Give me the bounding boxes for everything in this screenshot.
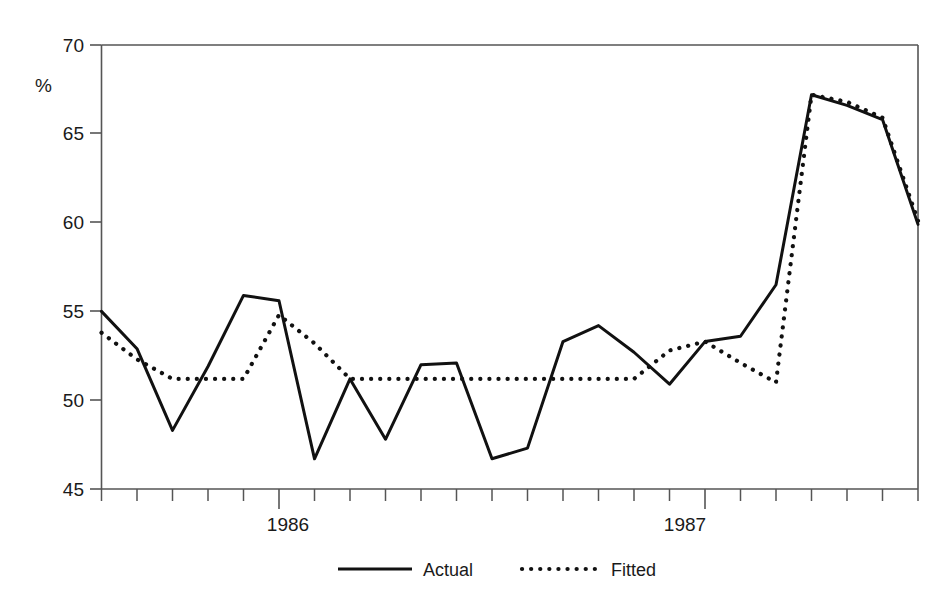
- y-tick-label-50: 50: [63, 390, 84, 411]
- plot-frame: [102, 45, 919, 489]
- chart-legend: Actual Fitted: [338, 560, 656, 580]
- y-tick-label-60: 60: [63, 212, 84, 233]
- chart-container: 70 65 60 55 50 45 % 1986 1987 Actual Fit…: [0, 0, 945, 607]
- y-tick-label-45: 45: [63, 479, 84, 500]
- legend-label-actual: Actual: [423, 560, 473, 580]
- y-tick-label-55: 55: [63, 301, 84, 322]
- y-tick-label-70: 70: [63, 35, 84, 56]
- y-axis-tick-labels: 70 65 60 55 50 45: [63, 35, 84, 500]
- line-chart: 70 65 60 55 50 45 % 1986 1987 Actual Fit…: [0, 0, 945, 607]
- x-tick-label-1987: 1987: [664, 514, 706, 535]
- y-axis-ticks: [90, 45, 102, 489]
- series-line-fitted: [102, 95, 919, 383]
- y-axis-unit-label: %: [35, 75, 52, 96]
- series-group: [102, 95, 919, 459]
- y-tick-label-65: 65: [63, 123, 84, 144]
- x-axis-tick-labels: 1986 1987: [267, 514, 706, 535]
- x-tick-label-1986: 1986: [267, 514, 309, 535]
- x-axis-ticks: [102, 489, 919, 509]
- series-line-actual: [102, 95, 919, 459]
- legend-label-fitted: Fitted: [611, 560, 656, 580]
